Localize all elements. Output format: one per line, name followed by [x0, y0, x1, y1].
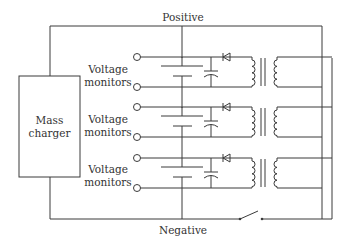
monitor-label-2b: monitors: [84, 126, 131, 138]
cell-row-2: Voltage monitors: [84, 103, 332, 141]
transformer-secondary: [274, 107, 277, 137]
monitor-label-3a: Voltage: [87, 163, 128, 175]
monitor-terminal: [134, 155, 141, 162]
monitor-terminal: [134, 54, 141, 61]
cell-row-3: Voltage monitors: [84, 154, 332, 192]
switch: [239, 211, 264, 220]
circuit-diagram: Positive Negative Mass charger Voltage m…: [0, 0, 350, 242]
monitor-terminal: [134, 84, 141, 91]
charger-label-line1: Mass: [36, 114, 64, 126]
monitor-label-1a: Voltage: [87, 63, 128, 75]
monitor-terminal: [134, 134, 141, 141]
transformer-primary: [252, 158, 255, 188]
mass-charger: Mass charger: [19, 76, 80, 177]
transformer-secondary: [274, 158, 277, 188]
monitor-label-1b: monitors: [84, 76, 131, 88]
transformer-secondary: [274, 57, 277, 87]
transformer-primary: [252, 57, 255, 87]
negative-label: Negative: [159, 224, 207, 236]
cell-row-1: Voltage monitors: [84, 53, 332, 91]
monitor-label-3b: monitors: [84, 176, 131, 188]
monitor-terminal: [134, 185, 141, 192]
charger-label-line2: charger: [29, 127, 72, 139]
monitor-terminal: [134, 104, 141, 111]
monitor-label-2a: Voltage: [87, 113, 128, 125]
positive-label: Positive: [162, 11, 203, 23]
transformer-primary: [252, 107, 255, 137]
